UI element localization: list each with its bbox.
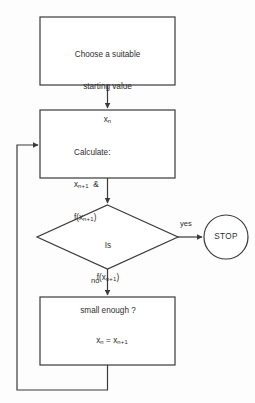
flowchart-canvas: Choose a suitable starting value xn Calc…	[0, 0, 255, 403]
stop-terminal-shape	[204, 215, 248, 259]
flowchart-graphics	[0, 0, 255, 403]
calculate-box-shape	[40, 110, 175, 178]
assign-box-shape	[40, 297, 175, 365]
start-box-shape	[40, 17, 175, 85]
decision-diamond-shape	[37, 205, 178, 269]
